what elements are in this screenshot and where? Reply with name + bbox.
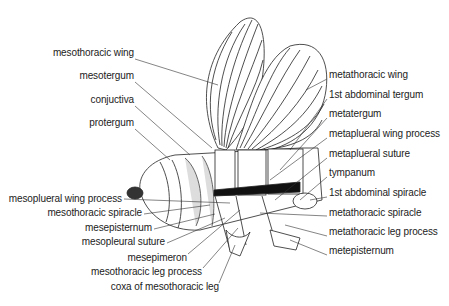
label-mesoplueral-wing-process: mesoplueral wing process bbox=[9, 193, 122, 205]
anatomy-diagram: mesothoracic wing mesotergum conjuctiva … bbox=[0, 0, 449, 306]
label-mesotergum: mesotergum bbox=[79, 70, 134, 82]
label-mesepisternum: mesepisternum bbox=[85, 222, 152, 234]
label-1st-abdominal-spiracle: 1st abdominal spiracle bbox=[329, 187, 426, 199]
label-metathoracic-leg-process: metathoracic leg process bbox=[329, 226, 438, 238]
label-mesopleural-suture: mesopleural suture bbox=[82, 236, 165, 248]
label-mesothoracic-wing: mesothoracic wing bbox=[53, 47, 134, 59]
label-protergum: protergum bbox=[89, 117, 134, 129]
label-metathoracic-spiracle: metathoracic spiracle bbox=[329, 207, 421, 219]
label-metepisternum: metepisternum bbox=[329, 245, 394, 257]
label-metatergum: metatergum bbox=[329, 108, 381, 120]
label-1st-abdominal-tergum: 1st abdominal tergum bbox=[329, 89, 423, 101]
label-metaplueral-suture: metaplueral suture bbox=[329, 148, 410, 160]
label-tympanum: tympanum bbox=[329, 167, 375, 179]
label-coxa-of-mesothoracic-leg: coxa of mesothoracic leg bbox=[111, 281, 219, 293]
label-mesepimeron: mesepimeron bbox=[128, 252, 187, 264]
label-metathoracic-wing: metathoracic wing bbox=[329, 69, 408, 81]
label-mesothoracic-spiracle: mesothoracic spiracle bbox=[47, 207, 142, 219]
label-metaplueral-wing-process: metaplueral wing process bbox=[329, 128, 440, 140]
label-mesothoracic-leg-process: mesothoracic leg process bbox=[91, 266, 202, 278]
label-conjuctiva: conjuctiva bbox=[91, 94, 134, 106]
